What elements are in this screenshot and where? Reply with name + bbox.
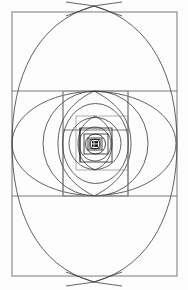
vesica-tail-top-left	[66, 6, 94, 16]
vesica-tail-bottom-right	[94, 272, 122, 282]
golden-ratio-diagram	[0, 0, 188, 290]
figure-canvas	[0, 0, 188, 290]
vesica-tail-bottom	[66, 282, 122, 286]
vesica-tail-top-right	[94, 6, 122, 16]
vesica-arc-right	[94, 6, 177, 282]
core-group	[88, 138, 102, 150]
vesica-tail-top	[66, 2, 122, 6]
vesica-arc-left	[12, 6, 94, 282]
petal-level-3-right	[94, 91, 131, 196]
core-slit-horizontal	[92, 144, 98, 145]
vesica-tail-bottom-left	[66, 272, 94, 282]
